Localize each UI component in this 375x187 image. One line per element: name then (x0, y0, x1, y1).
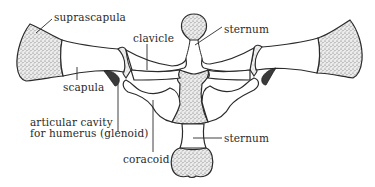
label-glenoid-line2: for humerus (glenoid) (30, 128, 149, 139)
left-coracoid (123, 80, 180, 122)
label-sternum-top: sternum (224, 24, 269, 35)
metasternum (180, 124, 206, 148)
omosternum (186, 40, 202, 58)
xiphisternum (171, 148, 212, 178)
diagram-drawing (0, 0, 375, 187)
right-suprascapula (317, 20, 362, 78)
right-scapula (255, 38, 319, 73)
label-clavicle: clavicle (133, 33, 174, 44)
label-suprascapula: suprascapula (54, 12, 126, 23)
label-scapula: scapula (63, 82, 104, 93)
left-scapula (61, 40, 125, 76)
right-coracoid (202, 78, 259, 122)
left-clavicle (126, 50, 187, 71)
episternum (182, 14, 207, 40)
label-coracoid: coracoid (123, 154, 170, 165)
right-glenoid (262, 68, 276, 85)
label-sternum-bottom: sternum (224, 133, 269, 144)
left-clavicle-bar (131, 70, 180, 80)
right-clavicle (202, 48, 255, 71)
pectoral-girdle-diagram: suprascapula clavicle sternum scapula ar… (0, 0, 375, 187)
right-clavicle-bar (208, 70, 250, 80)
left-glenoid (104, 71, 119, 86)
left-suprascapula (17, 24, 63, 81)
